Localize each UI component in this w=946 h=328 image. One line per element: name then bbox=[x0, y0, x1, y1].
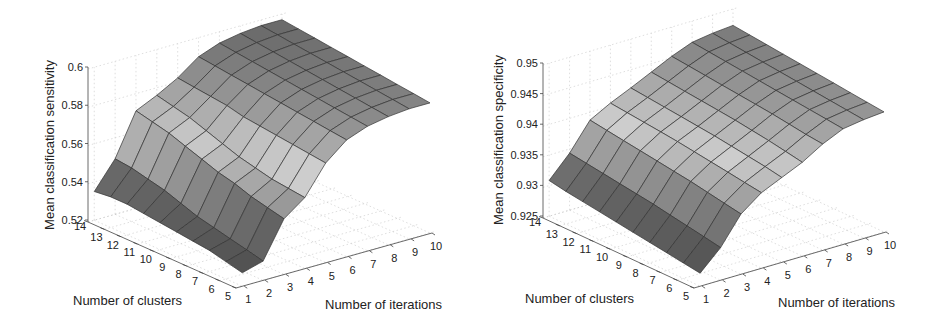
iteration-tick-label: 3 bbox=[744, 281, 750, 293]
specificity-chart-panel: 0.9250.930.9350.940.9450.951413121110987… bbox=[473, 0, 946, 328]
cluster-tick-label: 9 bbox=[159, 261, 165, 273]
cluster-tick-label: 6 bbox=[666, 282, 672, 294]
iteration-tick-label: 1 bbox=[703, 293, 709, 305]
z-tick-label: 0.56 bbox=[62, 138, 83, 150]
iteration-tick-label: 3 bbox=[287, 281, 293, 293]
iterations-axis-title: Number of iterations bbox=[325, 297, 443, 312]
iteration-tick-label: 8 bbox=[846, 251, 852, 263]
surface-mesh bbox=[94, 20, 430, 273]
sensitivity-chart-panel: 0.520.540.560.580.6141312111098765123456… bbox=[0, 0, 473, 328]
cluster-tick-label: 9 bbox=[616, 259, 622, 271]
clusters-axis-title: Number of clusters bbox=[525, 291, 635, 306]
surface-mesh bbox=[549, 25, 884, 273]
iteration-tick-label: 9 bbox=[867, 245, 873, 257]
iteration-tick-label: 5 bbox=[785, 269, 791, 281]
z-tick-label: 0.95 bbox=[517, 57, 538, 69]
cluster-tick-label: 13 bbox=[90, 231, 102, 243]
cluster-tick-label: 7 bbox=[649, 274, 655, 286]
iteration-tick-label: 10 bbox=[884, 239, 896, 251]
z-tick-label: 0.935 bbox=[510, 149, 538, 161]
iteration-tick-label: 7 bbox=[370, 258, 376, 270]
z-axis-title: Mean classification specificity bbox=[491, 55, 506, 225]
cluster-tick-label: 8 bbox=[176, 268, 182, 280]
cluster-tick-label: 11 bbox=[580, 243, 591, 255]
z-tick-label: 0.6 bbox=[68, 61, 83, 73]
z-tick-label: 0.93 bbox=[517, 179, 538, 191]
iteration-tick-label: 5 bbox=[329, 270, 335, 282]
cluster-tick-label: 13 bbox=[546, 228, 558, 240]
z-tick-label: 0.54 bbox=[62, 176, 83, 188]
cluster-tick-label: 11 bbox=[124, 246, 135, 258]
sensitivity-surface-plot: 0.520.540.560.580.6141312111098765123456… bbox=[0, 0, 473, 328]
cluster-tick-label: 10 bbox=[140, 253, 152, 265]
iteration-tick-label: 8 bbox=[391, 252, 397, 264]
cluster-tick-label: 7 bbox=[192, 275, 198, 287]
specificity-surface-plot: 0.9250.930.9350.940.9450.951413121110987… bbox=[473, 0, 946, 328]
iteration-tick-label: 2 bbox=[723, 287, 729, 299]
iteration-tick-label: 6 bbox=[805, 263, 811, 275]
iteration-tick-label: 1 bbox=[245, 293, 251, 305]
iteration-tick-label: 2 bbox=[266, 287, 272, 299]
cluster-tick-label: 10 bbox=[596, 251, 608, 263]
iteration-tick-label: 7 bbox=[826, 257, 832, 269]
cluster-tick-label: 12 bbox=[107, 239, 119, 251]
iteration-tick-label: 10 bbox=[430, 240, 442, 252]
cluster-tick-label: 8 bbox=[633, 267, 639, 279]
cluster-tick-label: 14 bbox=[529, 216, 541, 228]
cluster-tick-label: 12 bbox=[562, 236, 574, 248]
z-axis-title: Mean classification sensitivity bbox=[42, 60, 57, 230]
cluster-tick-label: 6 bbox=[208, 283, 214, 295]
iteration-tick-label: 4 bbox=[308, 275, 314, 287]
iterations-axis-title: Number of iterations bbox=[778, 295, 896, 310]
cluster-tick-label: 14 bbox=[74, 220, 86, 232]
z-tick-label: 0.94 bbox=[517, 118, 538, 130]
clusters-axis-title: Number of clusters bbox=[73, 293, 183, 308]
iteration-tick-label: 4 bbox=[764, 275, 770, 287]
cluster-tick-label: 5 bbox=[683, 290, 689, 302]
iteration-tick-label: 9 bbox=[412, 246, 418, 258]
z-tick-label: 0.945 bbox=[510, 88, 538, 100]
cluster-tick-label: 5 bbox=[225, 290, 231, 302]
z-tick-label: 0.58 bbox=[62, 99, 83, 111]
iteration-tick-label: 6 bbox=[349, 264, 355, 276]
